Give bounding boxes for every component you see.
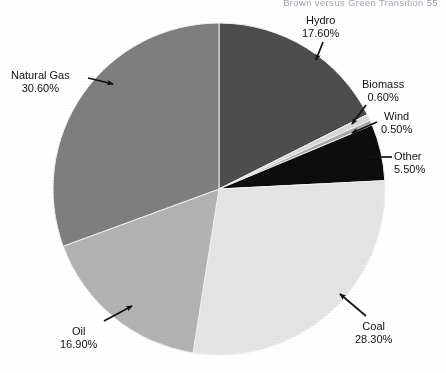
- label-biomass: Biomass 0.60%: [362, 78, 404, 103]
- pie-chart: Hydro 17.60% Natural Gas 30.60% Biomass …: [0, 0, 446, 373]
- label-other-name: Other: [394, 150, 422, 162]
- label-wind: Wind 0.50%: [381, 110, 412, 135]
- label-oil: Oil 16.90%: [60, 325, 97, 350]
- label-natural-gas-name: Natural Gas: [11, 69, 70, 81]
- label-coal-name: Coal: [362, 320, 385, 332]
- pie-slice-group: [53, 23, 385, 355]
- label-coal: Coal 28.30%: [355, 320, 392, 345]
- label-wind-name: Wind: [384, 110, 409, 122]
- label-wind-value: 0.50%: [381, 123, 412, 136]
- label-biomass-name: Biomass: [362, 78, 404, 90]
- label-coal-value: 28.30%: [355, 333, 392, 346]
- label-hydro-value: 17.60%: [302, 27, 339, 40]
- scanned-page: Brown versus Green Transition 55: [0, 0, 446, 373]
- label-biomass-value: 0.60%: [362, 91, 404, 104]
- label-hydro: Hydro 17.60%: [302, 14, 339, 39]
- label-natural-gas: Natural Gas 30.60%: [11, 69, 70, 94]
- label-other-value: 5.50%: [394, 163, 425, 176]
- label-oil-value: 16.90%: [60, 338, 97, 351]
- label-oil-name: Oil: [72, 325, 85, 337]
- pie-chart-svg: [0, 0, 446, 373]
- label-other: Other 5.50%: [394, 150, 425, 175]
- label-natural-gas-value: 30.60%: [11, 82, 70, 95]
- label-hydro-name: Hydro: [306, 14, 335, 26]
